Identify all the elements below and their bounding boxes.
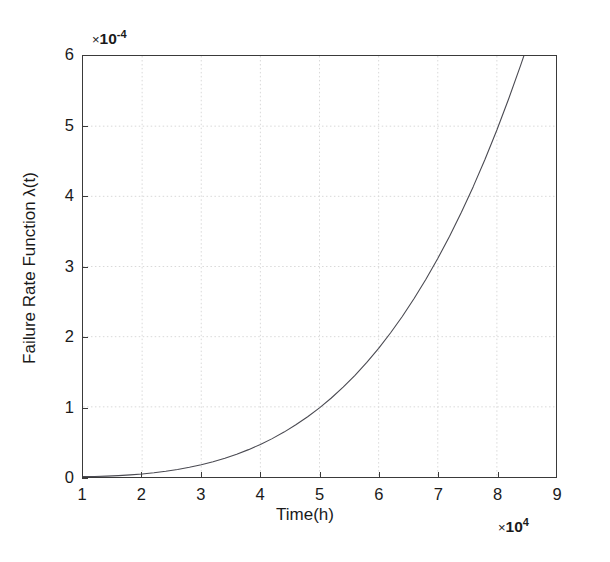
series-line-0 (83, 56, 535, 477)
x-tick-label-3: 4 (244, 486, 276, 503)
failure-rate-curve (83, 56, 556, 477)
y-axis-title-container: Failure Rate Function λ(t) (0, 0, 56, 562)
y-exponent-times: × (92, 32, 100, 47)
x-tick-label-4: 5 (304, 486, 336, 503)
y-axis-exponent-label: ×10-4 (92, 28, 127, 48)
x-tick-label-2: 3 (185, 486, 217, 503)
y-exponent-power: -4 (117, 28, 127, 40)
y-tick-mark-3 (82, 267, 88, 268)
x-tick-mark-1 (141, 472, 142, 478)
x-axis-title: Time(h) (0, 505, 610, 525)
x-tick-mark-7 (498, 472, 499, 478)
x-tick-label-0: 1 (66, 486, 98, 503)
y-tick-mark-6 (82, 55, 88, 56)
y-tick-mark-1 (82, 408, 88, 409)
y-tick-mark-2 (82, 337, 88, 338)
y-axis-title: Failure Rate Function λ(t) (20, 78, 40, 458)
figure-canvas: ×10-4 0123456123456789 ×104 Time(h) Fail… (0, 0, 610, 562)
x-tick-mark-2 (201, 472, 202, 478)
y-exponent-base: 10 (100, 30, 117, 47)
x-tick-label-8: 9 (541, 486, 573, 503)
x-tick-label-5: 6 (363, 486, 395, 503)
x-tick-mark-4 (320, 472, 321, 478)
x-tick-label-6: 7 (422, 486, 454, 503)
y-tick-mark-5 (82, 126, 88, 127)
x-tick-mark-6 (438, 472, 439, 478)
y-tick-mark-0 (82, 478, 88, 479)
y-tick-mark-4 (82, 196, 88, 197)
plot-area (82, 55, 557, 478)
x-tick-mark-5 (379, 472, 380, 478)
x-tick-mark-3 (260, 472, 261, 478)
x-tick-label-7: 8 (482, 486, 514, 503)
x-tick-label-1: 2 (125, 486, 157, 503)
